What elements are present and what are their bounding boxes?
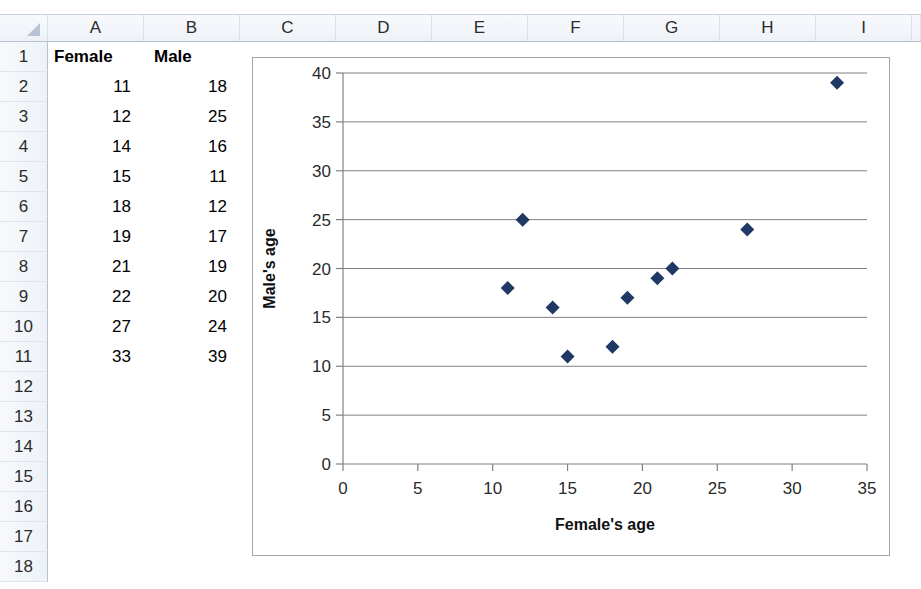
data-point-14-16[interactable] <box>546 301 560 315</box>
xtick-label-20: 20 <box>633 479 652 498</box>
data-point-12-25[interactable] <box>516 213 530 227</box>
data-point-11-18[interactable] <box>501 281 515 295</box>
column-header-b[interactable]: B <box>144 15 240 41</box>
row-header-16[interactable]: 16 <box>0 492 48 522</box>
row-header-14[interactable]: 14 <box>0 432 48 462</box>
cell-a3[interactable]: 12 <box>48 102 144 132</box>
column-header-e[interactable]: E <box>432 15 528 41</box>
row-header-9[interactable]: 9 <box>0 282 48 312</box>
column-header-f[interactable]: F <box>528 15 624 41</box>
cell-a11[interactable]: 33 <box>48 342 144 372</box>
cell-b6[interactable]: 12 <box>144 192 240 222</box>
cell-b8[interactable]: 19 <box>144 252 240 282</box>
data-point-21-19[interactable] <box>650 271 664 285</box>
table-row: 3339 <box>48 342 240 372</box>
cell-grid: FemaleMale111812251416151118121917211922… <box>48 42 240 372</box>
ytick-label-0: 0 <box>322 455 331 474</box>
cell-a5[interactable]: 15 <box>48 162 144 192</box>
ytick-label-15: 15 <box>312 308 331 327</box>
row-header-7[interactable]: 7 <box>0 222 48 252</box>
cell-a6[interactable]: 18 <box>48 192 144 222</box>
row-header-12[interactable]: 12 <box>0 372 48 402</box>
ytick-label-30: 30 <box>312 162 331 181</box>
cell-b1[interactable]: Male <box>144 42 240 72</box>
row-header-3[interactable]: 3 <box>0 102 48 132</box>
cell-a7[interactable]: 19 <box>48 222 144 252</box>
column-header-h[interactable]: H <box>720 15 816 41</box>
table-row: 2220 <box>48 282 240 312</box>
xtick-label-10: 10 <box>483 479 502 498</box>
column-header-partial[interactable] <box>912 15 921 41</box>
table-row: 1118 <box>48 72 240 102</box>
cell-a4[interactable]: 14 <box>48 132 144 162</box>
cell-a2[interactable]: 11 <box>48 72 144 102</box>
chart-plot-area: 051015202530354005101520253035Female's a… <box>253 58 889 555</box>
data-point-27-24[interactable] <box>740 222 754 236</box>
data-point-18-12[interactable] <box>605 340 619 354</box>
xtick-label-25: 25 <box>708 479 727 498</box>
y-axis-title: Male's age <box>261 228 278 308</box>
xtick-label-0: 0 <box>338 479 347 498</box>
row-header-13[interactable]: 13 <box>0 402 48 432</box>
data-point-15-11[interactable] <box>561 349 575 363</box>
select-all-corner[interactable] <box>0 15 48 41</box>
row-header-17[interactable]: 17 <box>0 522 48 552</box>
cell-a10[interactable]: 27 <box>48 312 144 342</box>
xtick-label-35: 35 <box>858 479 877 498</box>
row-header-4[interactable]: 4 <box>0 132 48 162</box>
column-header-i[interactable]: I <box>816 15 912 41</box>
cell-b5[interactable]: 11 <box>144 162 240 192</box>
cell-b11[interactable]: 39 <box>144 342 240 372</box>
ytick-label-35: 35 <box>312 113 331 132</box>
table-row: 2724 <box>48 312 240 342</box>
table-row: 1225 <box>48 102 240 132</box>
cell-a9[interactable]: 22 <box>48 282 144 312</box>
table-row: 2119 <box>48 252 240 282</box>
row-header-15[interactable]: 15 <box>0 462 48 492</box>
xtick-label-5: 5 <box>413 479 422 498</box>
column-header-row: ABCDEFGHI <box>0 14 921 42</box>
ytick-label-40: 40 <box>312 64 331 83</box>
cell-a8[interactable]: 21 <box>48 252 144 282</box>
table-row: 1917 <box>48 222 240 252</box>
table-row: 1416 <box>48 132 240 162</box>
row-header-18[interactable]: 18 <box>0 552 48 582</box>
ytick-label-5: 5 <box>322 406 331 425</box>
xtick-label-15: 15 <box>558 479 577 498</box>
cell-b7[interactable]: 17 <box>144 222 240 252</box>
row-header-8[interactable]: 8 <box>0 252 48 282</box>
column-header-a[interactable]: A <box>48 15 144 41</box>
table-row: 1511 <box>48 162 240 192</box>
column-header-g[interactable]: G <box>624 15 720 41</box>
cell-a1[interactable]: Female <box>48 42 144 72</box>
ytick-label-10: 10 <box>312 357 331 376</box>
row-header-6[interactable]: 6 <box>0 192 48 222</box>
scatter-chart[interactable]: 051015202530354005101520253035Female's a… <box>252 57 890 556</box>
cell-b9[interactable]: 20 <box>144 282 240 312</box>
cell-b3[interactable]: 25 <box>144 102 240 132</box>
xtick-label-30: 30 <box>783 479 802 498</box>
cell-b10[interactable]: 24 <box>144 312 240 342</box>
table-row: FemaleMale <box>48 42 240 72</box>
row-header-11[interactable]: 11 <box>0 342 48 372</box>
column-header-c[interactable]: C <box>240 15 336 41</box>
data-point-33-39[interactable] <box>830 76 844 90</box>
ytick-label-20: 20 <box>312 260 331 279</box>
cell-b4[interactable]: 16 <box>144 132 240 162</box>
row-header-10[interactable]: 10 <box>0 312 48 342</box>
row-header-1[interactable]: 1 <box>0 42 48 72</box>
row-header-strip: 123456789101112131415161718 <box>0 42 48 582</box>
cell-b2[interactable]: 18 <box>144 72 240 102</box>
row-header-5[interactable]: 5 <box>0 162 48 192</box>
select-all-triangle-icon <box>27 23 40 36</box>
row-header-2[interactable]: 2 <box>0 72 48 102</box>
data-point-19-17[interactable] <box>620 291 634 305</box>
ytick-label-25: 25 <box>312 211 331 230</box>
column-header-d[interactable]: D <box>336 15 432 41</box>
x-axis-title: Female's age <box>555 516 655 533</box>
data-point-22-20[interactable] <box>665 262 679 276</box>
table-row: 1812 <box>48 192 240 222</box>
